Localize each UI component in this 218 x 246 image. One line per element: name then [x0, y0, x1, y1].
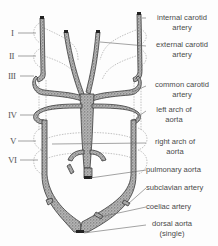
vessels: [33, 14, 142, 232]
label-line: aorta: [144, 147, 206, 157]
label-line: artery: [146, 90, 218, 100]
left-external-carotid: [64, 32, 84, 96]
label-dorsal-aorta: dorsal aorta (single): [144, 219, 200, 238]
arch-numeral-IV: IV: [8, 111, 17, 120]
pulmonary-stub-left: [67, 164, 74, 174]
label-common-carotid-artery: common carotid artery: [146, 80, 218, 99]
label-coeliac-artery: coeliac artery: [146, 202, 218, 212]
left-internal-carotid: [37, 18, 45, 82]
numeral-leaders: [18, 33, 38, 160]
label-line: aorta: [144, 115, 204, 125]
label-line: external carotid: [146, 40, 218, 50]
arch-numeral-II: II: [9, 52, 14, 61]
label-line: artery: [146, 50, 218, 60]
label-line: artery: [146, 23, 218, 33]
left-dorsal-aorta: [42, 120, 82, 232]
arch-numeral-VI: VI: [8, 156, 17, 165]
label-line: pulmonary aorta: [146, 165, 218, 175]
label-pulmonary-aorta: pulmonary aorta: [146, 165, 218, 175]
label-subclavian-artery: subclavian artery: [146, 183, 218, 193]
label-line: common carotid: [146, 80, 218, 90]
label-line: left arch of: [144, 105, 204, 115]
label-line: coeliac artery: [146, 202, 218, 212]
right-pulmonary-branch: [90, 150, 106, 161]
right-internal-carotid: [133, 14, 142, 82]
label-line: subclavian artery: [146, 183, 218, 193]
arch-numeral-III: III: [8, 72, 16, 81]
arch-numeral-V: V: [10, 137, 16, 146]
label-line: internal carotid: [146, 13, 218, 23]
label-right-arch-of-aorta: right arch of aorta: [144, 137, 206, 156]
label-left-arch-of-aorta: left arch of aorta: [144, 105, 204, 124]
aortic-arches-diagram: I II III IV V VI internal carotid artery…: [0, 0, 218, 246]
label-line: (single): [144, 229, 200, 239]
arch-numeral-I: I: [11, 29, 14, 38]
right-external-carotid: [86, 32, 100, 94]
left-pulmonary-branch: [68, 150, 84, 161]
label-internal-carotid-artery: internal carotid artery: [146, 13, 218, 32]
left-arch-IV: [34, 104, 82, 124]
label-external-carotid-artery: external carotid artery: [146, 40, 218, 59]
label-line: dorsal aorta: [144, 219, 200, 229]
label-line: right arch of: [144, 137, 206, 147]
